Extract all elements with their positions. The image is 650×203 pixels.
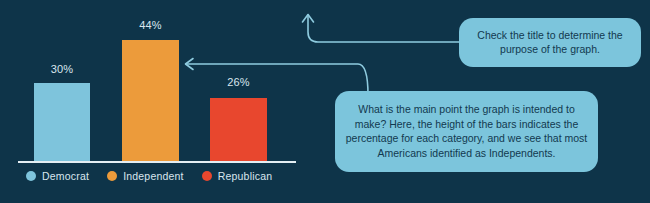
legend-dot-republican	[202, 171, 212, 181]
bar-value-republican: 26%	[210, 76, 267, 88]
legend-item-republican: Republican	[202, 170, 273, 182]
chart-legend: Democrat Independent Republican	[26, 170, 272, 182]
legend-item-independent: Independent	[107, 170, 184, 182]
bar-value-independent: 44%	[122, 19, 179, 31]
bar-republican	[210, 98, 267, 162]
legend-dot-independent	[107, 171, 117, 181]
legend-label-democrat: Democrat	[42, 170, 89, 182]
callout-main-hint: What is the main point the graph is inte…	[335, 91, 598, 172]
callout-title-hint: Check the title to determine the purpose…	[459, 18, 641, 67]
bar-democrat	[34, 83, 90, 162]
legend-label-republican: Republican	[218, 170, 273, 182]
bar-independent	[122, 40, 179, 162]
legend-label-independent: Independent	[123, 170, 184, 182]
bar-chart: 30% 44% 26% Democrat Independent Republi…	[0, 0, 330, 203]
x-axis-line	[18, 161, 296, 163]
bar-value-democrat: 30%	[34, 63, 90, 75]
legend-item-democrat: Democrat	[26, 170, 89, 182]
annotated-bar-chart-figure: 30% 44% 26% Democrat Independent Republi…	[0, 0, 650, 203]
legend-dot-democrat	[26, 171, 36, 181]
